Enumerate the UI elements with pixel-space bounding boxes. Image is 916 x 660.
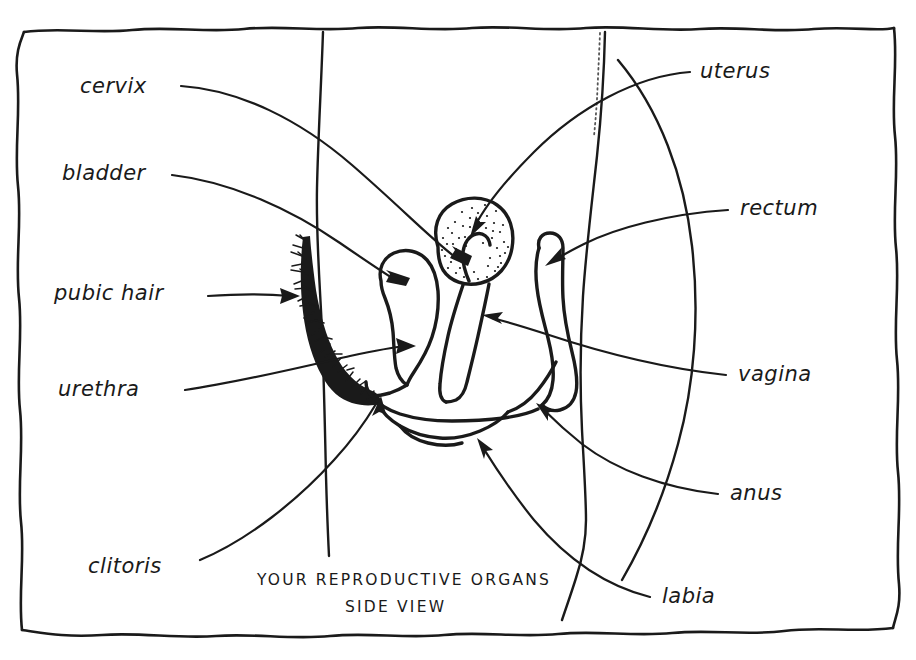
vagina-organ [440, 284, 489, 402]
label-clitoris: clitoris [88, 554, 162, 578]
leader-bladder [172, 175, 400, 283]
figure-page: cervix bladder pubic hair urethra clitor… [0, 0, 916, 660]
arrowhead-vagina [482, 312, 503, 324]
leader-rectum [554, 210, 728, 261]
anatomy-diagram: cervix bladder pubic hair urethra clitor… [0, 0, 916, 660]
dotted-midline [594, 33, 600, 136]
label-bladder: bladder [62, 161, 147, 185]
label-vagina: vagina [738, 362, 812, 386]
label-pubic-hair: pubic hair [53, 281, 165, 305]
label-rectum: rectum [740, 196, 818, 220]
label-cervix: cervix [80, 74, 147, 98]
label-labia: labia [662, 584, 715, 608]
leader-cervix [181, 86, 462, 262]
urethra-organ [372, 385, 407, 396]
figure-caption: YOUR REPRODUCTIVE ORGANS SIDE VIEW [256, 571, 551, 616]
leader-pubic-hair [208, 295, 290, 297]
label-anus: anus [730, 481, 782, 505]
label-uterus: uterus [700, 59, 770, 83]
leader-urethra [185, 346, 406, 390]
leader-anus [544, 410, 718, 494]
arrowhead-bladder [386, 270, 410, 286]
bladder-organ [380, 251, 438, 385]
hand-drawn-frame [17, 27, 900, 637]
label-urethra: urethra [58, 377, 139, 401]
caption-subtitle: SIDE VIEW [345, 598, 446, 616]
leader-uterus [474, 72, 690, 228]
uterus-organ [436, 198, 513, 284]
arrowhead-pubic-hair [280, 288, 300, 304]
leader-vagina [492, 318, 726, 375]
leader-clitoris [200, 404, 376, 560]
arrowhead-cervix [450, 246, 472, 266]
body-contour-lines [317, 32, 696, 620]
arrowhead-urethra [396, 338, 416, 354]
uterus-stipple [441, 204, 509, 280]
label-texts: cervix bladder pubic hair urethra clitor… [53, 59, 818, 608]
caption-title: YOUR REPRODUCTIVE ORGANS [256, 571, 551, 589]
arrowhead-labia [477, 438, 493, 459]
